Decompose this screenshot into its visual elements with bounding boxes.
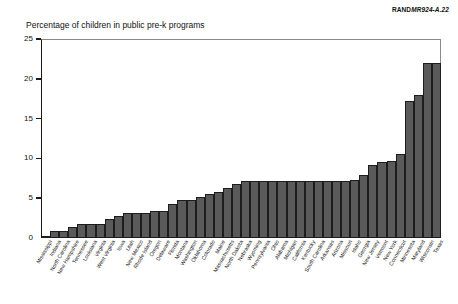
bar — [405, 101, 414, 238]
y-axis-tick-label: 15 — [24, 114, 33, 123]
bar — [432, 63, 441, 238]
y-axis-tick-label: 20 — [24, 74, 33, 83]
rand-report-code: MR924-A.22 — [411, 6, 449, 13]
chart-figure: RANDMR924-A.22 Percentage of children in… — [0, 0, 458, 304]
rand-label: RAND — [392, 6, 411, 13]
bar — [423, 63, 432, 238]
y-axis-tick-label: 25 — [24, 34, 33, 43]
x-axis-labels: MississippiIndianaNorth CarolinaNew Hamp… — [41, 239, 441, 304]
y-axis-tick-label: 10 — [24, 153, 33, 162]
bar-series — [41, 39, 441, 238]
y-axis-tick-label: 5 — [29, 193, 33, 202]
rand-source-tag: RANDMR924-A.22 — [392, 6, 449, 13]
y-axis-tick-label: 0 — [29, 233, 33, 242]
y-axis: 0510152025 — [0, 39, 41, 238]
chart-title: Percentage of children in public pre-k p… — [26, 20, 205, 30]
